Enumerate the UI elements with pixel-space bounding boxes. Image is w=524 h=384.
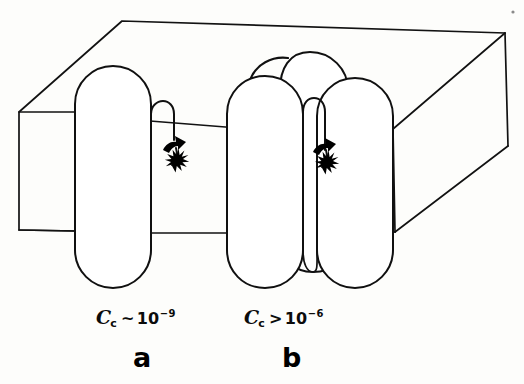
panel-a-protein	[75, 66, 189, 288]
scan-artifact-speck	[511, 10, 514, 13]
panel-b-capsule-left	[227, 76, 303, 288]
panel-a-capsule	[75, 66, 151, 288]
slab-front-top-edge-seg2	[150, 121, 238, 128]
panel-a-hairpin-loop	[151, 101, 174, 140]
diagram-canvas	[0, 0, 524, 384]
slab-right-back-vertical	[505, 33, 508, 146]
slab-front-bottom-edge-seg1	[19, 230, 76, 231]
slab-right-face-bottom-diagonal	[395, 146, 508, 232]
slab-right-face-top-diagonal	[393, 33, 505, 129]
figure-root: Cc~10−9 Cc>10−6 a b	[0, 0, 524, 384]
panel-b-capsule-right	[317, 78, 393, 288]
slab-left-face	[19, 112, 76, 231]
panel-b-protein-cluster	[227, 52, 393, 288]
